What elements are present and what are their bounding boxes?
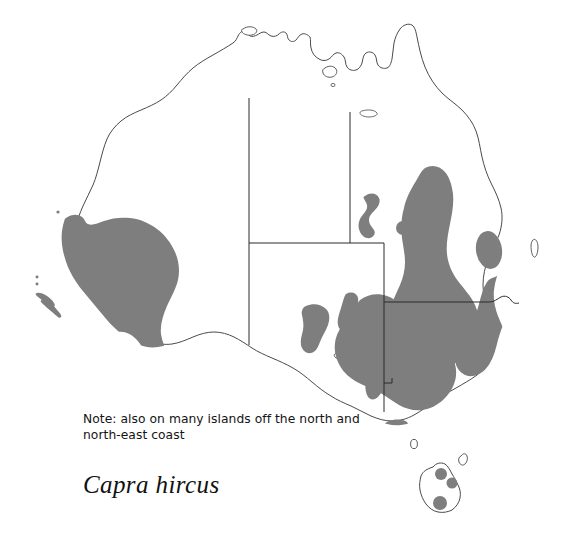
shade-victoria-spot-1: [417, 434, 432, 448]
fraser-island: [531, 239, 538, 257]
groote-eylandt: [323, 66, 337, 77]
wa-islet-3: [36, 283, 39, 286]
shade-tasmania-south: [433, 496, 447, 510]
flinders-island: [459, 454, 468, 465]
species-caption: Capra hircus: [83, 470, 220, 500]
shade-victoria-east: [465, 408, 491, 435]
shade-wa-south-patch-2: [96, 382, 114, 394]
melville-island: [242, 27, 257, 36]
shade-sa-spot-1: [342, 335, 352, 345]
wa-islet-2: [36, 276, 39, 279]
gulf-island: [360, 110, 377, 117]
shade-sa-spot-2: [355, 340, 366, 350]
distribution-map-figure: Note: also on many islands off the north…: [0, 0, 566, 539]
mornington-island: [331, 83, 335, 86]
shade-victoria-oval-2: [427, 419, 452, 434]
shade-tasmania-east: [447, 478, 458, 489]
shade-sw-western-australia: [44, 215, 179, 366]
shade-central-qld-dot: [421, 257, 425, 261]
king-island: [411, 439, 418, 448]
australia-map: [0, 0, 566, 539]
shade-sa-spot-4: [364, 351, 374, 361]
wa-islet-1: [56, 211, 59, 214]
shade-wa-south-patch-1: [94, 346, 109, 368]
shade-tasmania-north: [435, 468, 447, 480]
shade-nw-queensland-spot-2: [396, 221, 410, 235]
map-note: Note: also on many islands off the north…: [83, 412, 383, 443]
shade-nw-queensland-spot-1: [408, 201, 422, 216]
